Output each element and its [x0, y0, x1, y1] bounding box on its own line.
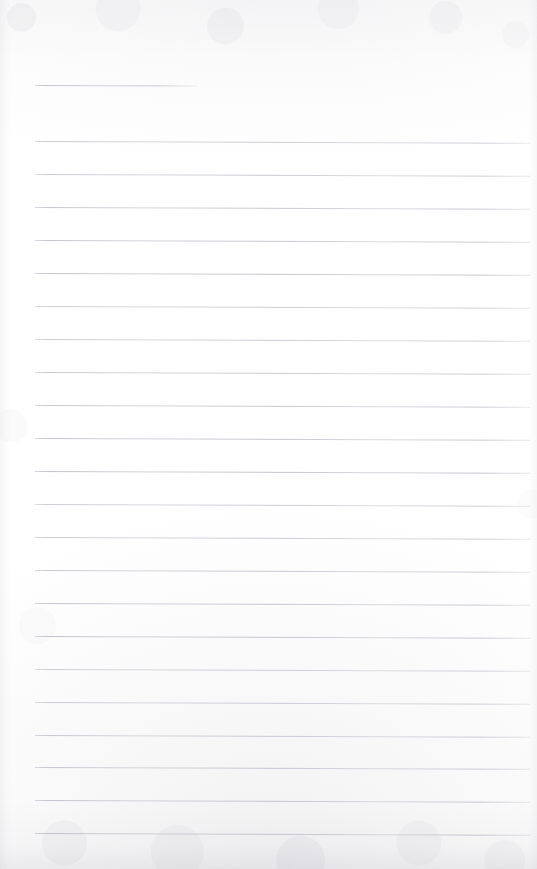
ruled-line	[35, 174, 530, 177]
ruled-line	[35, 339, 530, 342]
ruled-line	[35, 833, 530, 836]
ruled-line	[35, 471, 530, 474]
ruled-line	[35, 405, 530, 408]
ruled-line	[35, 504, 530, 507]
ruled-line	[35, 438, 530, 441]
ruled-line	[35, 702, 530, 705]
ruled-line	[35, 273, 530, 276]
ruled-line	[35, 306, 530, 309]
ruled-line	[35, 570, 530, 573]
scanned-page	[0, 0, 537, 869]
ruled-line	[35, 636, 530, 639]
ruled-line	[35, 372, 530, 375]
ruled-line-short	[35, 85, 197, 87]
ruled-line	[35, 240, 530, 243]
ruled-line	[35, 800, 530, 803]
ruled-line	[35, 669, 530, 672]
ruled-lines-layer	[0, 0, 537, 869]
ruled-line	[35, 537, 530, 540]
ruled-line	[35, 603, 530, 606]
ruled-line	[35, 141, 530, 144]
ruled-line	[35, 735, 530, 738]
ruled-line	[35, 207, 530, 210]
ruled-line	[35, 767, 530, 770]
